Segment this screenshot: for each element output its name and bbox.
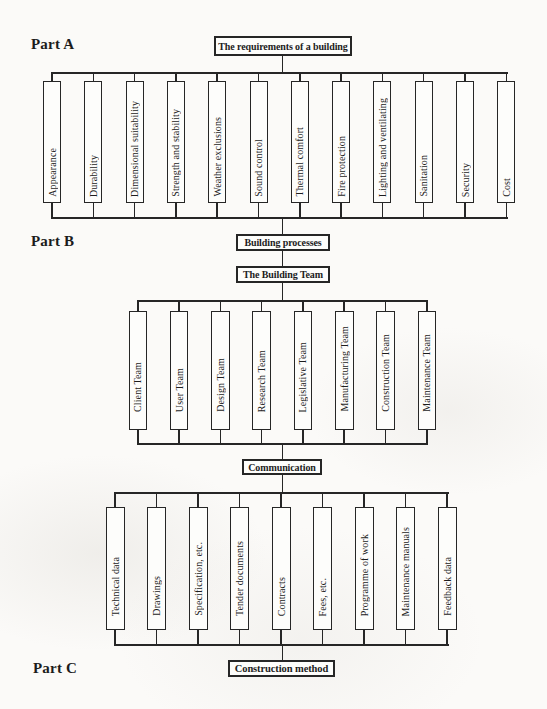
flow-box-fees-etc: Fees, etc. (313, 507, 332, 630)
connector-stub (282, 217, 284, 234)
bottom-connector-line (115, 644, 449, 646)
flow-box-maintenance-team: Maintenance Team (418, 311, 437, 430)
connector-stub (506, 203, 508, 219)
flow-box-label: Research Team (256, 350, 267, 412)
connector-stub (137, 300, 139, 311)
flow-box-design-team: Design Team (211, 311, 230, 430)
connector-stub (464, 203, 466, 219)
connector-stub (382, 72, 384, 81)
connector-stub (382, 203, 384, 219)
connector-stub (302, 300, 304, 311)
connector-stub (178, 300, 180, 311)
connector-stub (426, 430, 428, 445)
connector-stub (134, 72, 136, 81)
flow-box-research-team: Research Team (252, 311, 271, 430)
flow-box-drawings: Drawings (147, 507, 166, 630)
flow-box-label: Appearance (47, 148, 58, 197)
communication-label: Communication (248, 462, 316, 473)
building-processes-box: Building processes (236, 234, 330, 251)
connector-stub (51, 72, 53, 81)
connector-stub (156, 630, 158, 646)
connector-stub (322, 630, 324, 646)
connector-stub (93, 72, 95, 81)
flow-box-lighting-and-ventilating: Lighting and ventilating (373, 81, 391, 203)
bottom-connector-line (52, 217, 508, 219)
flow-box-label: Construction Team (380, 334, 391, 412)
construction-method-label: Construction method (235, 663, 328, 674)
connector-stub (220, 300, 222, 311)
connector-stub (385, 300, 387, 311)
flow-box-specification-etc: Specification, etc. (189, 507, 208, 630)
diagram-page: Part A The requirements of a building Ap… (0, 0, 547, 709)
connector-stub (282, 644, 284, 660)
connector-stub (258, 203, 260, 219)
flow-box-label: Manufacturing Team (339, 326, 350, 412)
connector-stub (446, 630, 448, 646)
flow-box-label: Strength and stability (170, 109, 181, 197)
flow-box-user-team: User Team (170, 311, 189, 430)
flow-box-label: Sanitation (418, 155, 429, 197)
connector-stub (51, 203, 53, 219)
flow-box-label: Maintenance Team (421, 334, 432, 412)
connector-stub (261, 300, 263, 311)
connector-stub (405, 492, 407, 507)
flow-box-cost: Cost (497, 81, 515, 203)
connector-stub (197, 630, 199, 646)
connector-stub (423, 203, 425, 219)
flow-box-label: User Team (174, 368, 185, 412)
flow-box-technical-data: Technical data (106, 507, 125, 630)
connector-stub (282, 475, 284, 492)
flow-box-label: Sound control (253, 139, 264, 197)
connector-stub (280, 630, 282, 646)
flow-box-label: Technical data (110, 557, 121, 616)
flow-box-label: Thermal comfort (294, 127, 305, 197)
flow-box-weather-exclusions: Weather exclusions (208, 81, 226, 203)
connector-stub (282, 283, 284, 300)
flow-box-security: Security (456, 81, 474, 203)
communication-box: Communication (242, 459, 322, 475)
flow-box-label: Dimensional suitability (129, 101, 140, 197)
construction-method-box: Construction method (228, 660, 335, 677)
connector-stub (363, 492, 365, 507)
part-a-header-label: The requirements of a building (218, 41, 347, 52)
connector-stub (343, 300, 345, 311)
connector-stub (340, 72, 342, 81)
connector-stub (137, 430, 139, 445)
part-c-label: Part C (33, 660, 77, 677)
flow-box-label: Feedback data (442, 557, 453, 616)
flow-box-label: Drawings (151, 576, 162, 616)
flow-box-label: Cost (501, 178, 512, 197)
connector-stub (175, 203, 177, 219)
connector-stub (302, 430, 304, 445)
flow-box-label: Fire protection (336, 136, 347, 197)
building-team-box: The Building Team (236, 266, 330, 283)
flow-box-label: Programme of work (359, 534, 370, 616)
connector-stub (385, 430, 387, 445)
flow-box-label: Design Team (215, 358, 226, 412)
flow-box-sound-control: Sound control (250, 81, 268, 203)
connector-stub (446, 492, 448, 507)
flow-box-dimensional-suitability: Dimensional suitability (126, 81, 144, 203)
flow-box-label: Client Team (132, 362, 143, 412)
connector-stub (216, 72, 218, 81)
building-processes-label: Building processes (244, 237, 321, 248)
flow-box-durability: Durability (84, 81, 102, 203)
part-b-label: Part B (31, 233, 74, 250)
connector-stub (216, 203, 218, 219)
flow-box-manufacturing-team: Manufacturing Team (335, 311, 354, 430)
connector-stub (282, 56, 284, 72)
flow-box-label: Legislative Team (297, 342, 308, 412)
connector-stub (426, 300, 428, 311)
connector-stub (239, 630, 241, 646)
flow-box-appearance: Appearance (43, 81, 61, 203)
part-a-label: Part A (31, 36, 74, 53)
part-a-header-box: The requirements of a building (214, 36, 352, 56)
flow-box-tender-documents: Tender documents (230, 507, 249, 630)
connector-stub (282, 443, 284, 459)
top-connector-line (52, 72, 508, 74)
flow-box-maintenance-manuals: Maintenance manuals (396, 507, 415, 630)
connector-stub (156, 492, 158, 507)
connector-stub (220, 430, 222, 445)
flow-box-label: Lighting and ventilating (377, 98, 388, 197)
flow-box-label: Contracts (276, 577, 287, 616)
